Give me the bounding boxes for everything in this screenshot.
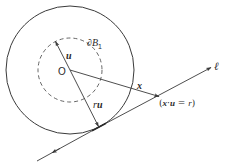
tangent-line-l-lower xyxy=(37,127,99,161)
condition-equals: = xyxy=(175,98,188,108)
diagram-canvas xyxy=(0,0,228,164)
condition-close-paren: ) xyxy=(192,98,196,108)
tangent-contact-mark xyxy=(92,123,106,131)
tangent-line-l-lower-arrowhead xyxy=(52,148,60,152)
position-vector-x-label: x xyxy=(137,81,142,91)
unit-sphere-label: ∂B1 xyxy=(87,38,102,52)
line-l-label: ℓ xyxy=(214,61,219,71)
tangency-condition-label: (x·u = r) xyxy=(159,98,195,108)
vector-x-arrow xyxy=(70,70,159,97)
origin-label: O xyxy=(58,67,66,77)
unit-sphere-subscript: 1 xyxy=(98,43,102,50)
unit-sphere-symbol: ∂B xyxy=(87,37,98,48)
unit-vector-u-label: u xyxy=(66,51,72,61)
scaled-vector-ru-label: ru xyxy=(93,100,102,110)
ru-u: u xyxy=(97,99,103,110)
